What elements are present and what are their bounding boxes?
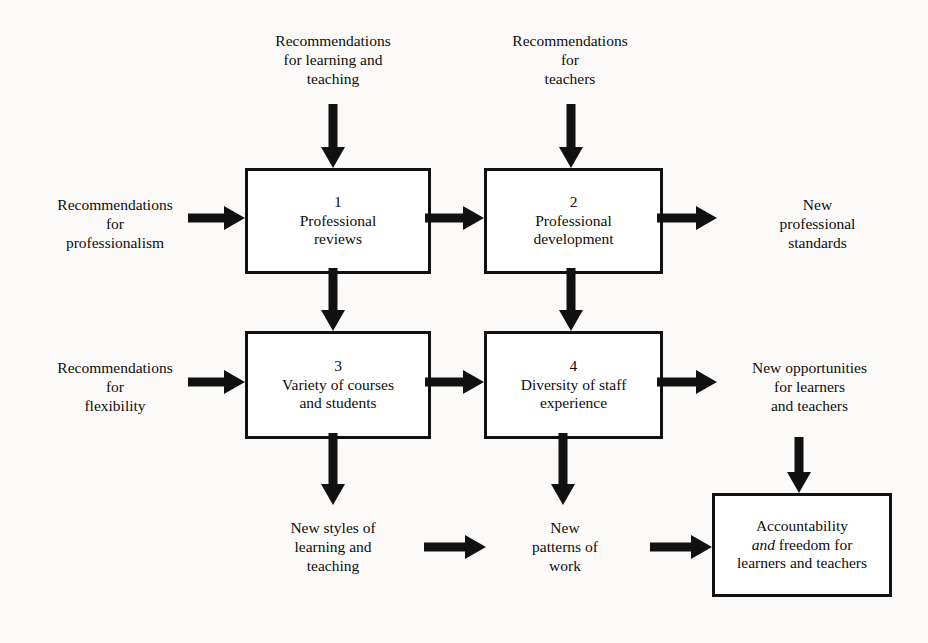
node-number: 1 (300, 193, 377, 212)
arrow-shaft (329, 268, 338, 310)
outcome-line-2-rest: freedom for (775, 536, 852, 553)
caption-line: professional (780, 215, 856, 232)
node-title-line-2: and students (282, 394, 394, 413)
arrow-box4-to-opportunities (657, 370, 717, 394)
caption-line: work (549, 557, 581, 574)
caption-new-opportunities: New opportunities for learners and teach… (712, 359, 907, 416)
arrow-head (787, 472, 811, 493)
caption-line: flexibility (84, 397, 145, 414)
arrow-box4-to-new-patterns (552, 433, 574, 505)
caption-line: for (561, 51, 579, 68)
caption-line: New opportunities (752, 359, 867, 376)
arrow-shaft (567, 268, 576, 310)
arrow-new-styles-to-new-patterns (424, 535, 486, 559)
arrow-head (321, 310, 345, 331)
node-title-line-1: Diversity of staff (521, 376, 627, 395)
arrow-shaft (425, 214, 463, 223)
caption-line: New (803, 196, 832, 213)
caption-line: for (106, 215, 124, 232)
caption-line: professionalism (66, 234, 164, 251)
arrow-box2-to-standards (657, 206, 717, 230)
node-title-line-2: development (533, 230, 613, 249)
arrow-head (224, 370, 245, 394)
diagram-canvas: Recommendations for learning and teachin… (0, 0, 928, 643)
arrow-head (321, 484, 345, 505)
node-professional-development[interactable]: 2 Professional development (484, 168, 663, 274)
node-number: 4 (521, 357, 627, 376)
caption-line: for learners (774, 378, 845, 395)
arrow-head (463, 370, 484, 394)
node-professional-reviews[interactable]: 1 Professional reviews (245, 168, 431, 274)
outcome-line-2: and freedom for (737, 536, 867, 555)
caption-line: teachers (545, 70, 596, 87)
outcome-line-1: Accountability (737, 517, 867, 536)
arrow-head (463, 206, 484, 230)
arrow-box3-to-box4 (425, 370, 484, 394)
arrow-shaft (329, 433, 338, 484)
outcome-italic-and: and (752, 536, 775, 553)
arrow-into-box3-left (188, 370, 245, 394)
node-title-line-1: Variety of courses (282, 376, 394, 395)
arrow-shaft (425, 378, 463, 387)
arrow-shaft (657, 378, 696, 387)
outcome-line-3: learners and teachers (737, 554, 867, 573)
arrow-box1-to-box2 (425, 206, 484, 230)
caption-line: Recommendations (275, 32, 390, 49)
caption-line: learning and (294, 538, 371, 555)
arrow-box2-to-box4 (560, 268, 582, 331)
node-diversity-of-staff[interactable]: 4 Diversity of staff experience (484, 331, 663, 439)
caption-new-professional-standards: New professional standards (735, 196, 900, 253)
caption-line: and teachers (771, 397, 848, 414)
node-title-line-2: experience (521, 394, 627, 413)
arrow-shaft (424, 543, 465, 552)
arrow-shaft (188, 378, 224, 387)
arrow-shaft (188, 214, 224, 223)
caption-line: New (550, 519, 579, 536)
arrow-head (559, 147, 583, 168)
caption-line: Recommendations (57, 359, 172, 376)
node-accountability-and-freedom[interactable]: Accountability and freedom for learners … (712, 493, 892, 597)
arrow-head (559, 310, 583, 331)
arrow-shaft (795, 437, 804, 472)
caption-new-styles: New styles of learning and teaching (258, 519, 408, 576)
caption-recommendations-flexibility: Recommendations for flexibility (25, 359, 205, 416)
caption-recommendations-professionalism: Recommendations for professionalism (25, 196, 205, 253)
caption-new-patterns: New patterns of work (505, 519, 625, 576)
arrow-shaft (329, 104, 338, 147)
node-number: 2 (533, 193, 613, 212)
arrow-shaft (559, 433, 568, 484)
arrow-head (696, 370, 717, 394)
caption-line: patterns of (532, 538, 598, 555)
caption-line: standards (788, 234, 847, 251)
node-number: 3 (282, 357, 394, 376)
caption-line: Recommendations (57, 196, 172, 213)
caption-line: Recommendations (512, 32, 627, 49)
arrow-head (551, 484, 575, 505)
node-title-line-1: Professional (300, 212, 377, 231)
arrow-shaft (657, 214, 696, 223)
arrow-opportunities-to-accountability (788, 437, 810, 493)
caption-recommendations-learning-teaching: Recommendations for learning and teachin… (248, 32, 418, 89)
caption-line: New styles of (290, 519, 375, 536)
arrow-into-box1-top (322, 104, 344, 168)
arrow-shaft (650, 543, 691, 552)
caption-line: for (106, 378, 124, 395)
caption-line: teaching (307, 557, 360, 574)
caption-recommendations-teachers: Recommendations for teachers (485, 32, 655, 89)
arrow-into-box1-left (188, 206, 245, 230)
arrow-head (321, 147, 345, 168)
caption-line: for learning and (284, 51, 383, 68)
node-variety-of-courses[interactable]: 3 Variety of courses and students (245, 331, 431, 439)
arrow-box1-to-box3 (322, 268, 344, 331)
arrow-head (691, 535, 712, 559)
arrow-head (224, 206, 245, 230)
caption-line: teaching (307, 70, 360, 87)
arrow-new-patterns-to-accountability (650, 535, 712, 559)
node-title-line-1: Professional (533, 212, 613, 231)
arrow-into-box2-top (560, 104, 582, 168)
node-title-line-2: reviews (300, 230, 377, 249)
arrow-box3-to-new-styles (322, 433, 344, 505)
arrow-shaft (567, 104, 576, 147)
arrow-head (696, 206, 717, 230)
arrow-head (465, 535, 486, 559)
